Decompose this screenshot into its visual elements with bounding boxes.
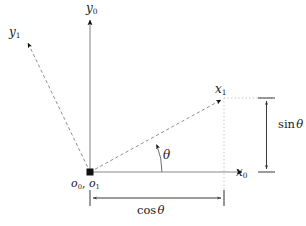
y1-axis-label-sub: 1: [16, 31, 21, 40]
cos-theta-label-arg: θ: [157, 203, 164, 217]
origin-label: o0, o1: [71, 178, 100, 191]
sin-theta-dimension: [258, 98, 275, 172]
y1-axis-label-base: y: [9, 25, 16, 39]
origin-label-o1-sub: 1: [96, 183, 100, 191]
x1-axis-label-base: x: [215, 82, 222, 96]
sin-theta-label: sin θ: [278, 119, 303, 131]
origin-point-marker: [87, 169, 94, 176]
x0-axis-label-sub: 0: [243, 171, 248, 180]
figure-canvas: [0, 0, 306, 226]
origin-label-o0-base: o: [71, 177, 78, 190]
x1-axis-line: [90, 100, 221, 172]
origin-label-separator: ,: [82, 177, 86, 190]
sin-theta-label-fn: sin: [278, 117, 295, 131]
cos-theta-label-fn: cos: [137, 203, 156, 217]
x0-axis-label-base: x: [236, 165, 243, 179]
sin-theta-label-arg: θ: [296, 117, 303, 131]
y0-axis-label: y0: [86, 2, 98, 15]
cos-theta-label: cos θ: [137, 205, 164, 217]
x0-axis-label: x0: [236, 166, 248, 179]
origin-label-o1-base: o: [89, 177, 96, 190]
x1-axis-label: x1: [215, 83, 227, 96]
theta-angle-arc: [157, 145, 162, 172]
y1-axis-line: [28, 43, 90, 172]
theta-angle-label: θ: [163, 149, 170, 161]
frame-1-axes: [28, 43, 221, 172]
coordinate-rotation-figure: y0 y1 x0 x1 o0, o1 θ sin θ cos θ: [0, 0, 306, 226]
y0-axis-label-sub: 0: [93, 7, 98, 16]
y1-axis-label: y1: [9, 26, 21, 39]
x1-axis-label-sub: 1: [222, 88, 227, 97]
theta-arc-path: [157, 145, 162, 172]
y0-axis-label-base: y: [86, 1, 93, 15]
construction-lines: [224, 98, 272, 204]
